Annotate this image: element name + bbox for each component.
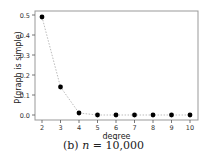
data-point — [95, 113, 100, 118]
x-tick-label: 5 — [95, 124, 99, 132]
x-tick-label: 3 — [58, 124, 62, 132]
data-point — [188, 113, 193, 118]
y-axis-label: P(graph is simple) — [14, 31, 23, 103]
chart: 0.00.10.20.30.40.52345678910degreeP(grap… — [0, 0, 207, 140]
data-point — [58, 85, 63, 90]
data-point — [114, 113, 119, 118]
caption-variable: n — [82, 139, 89, 152]
data-point — [151, 113, 156, 118]
data-point — [132, 113, 137, 118]
x-tick-label: 4 — [77, 124, 81, 132]
x-tick-label: 9 — [169, 124, 173, 132]
caption-value: 10,000 — [105, 139, 144, 152]
y-tick-label: 0.0 — [20, 112, 30, 120]
x-tick-label: 6 — [114, 124, 118, 132]
y-tick-label: 0.5 — [20, 12, 30, 20]
plot-frame — [35, 11, 198, 120]
figure-caption: (b) n = 10,000 — [0, 139, 207, 152]
caption-label: (b) — [63, 139, 79, 152]
data-point — [77, 111, 82, 116]
x-tick-label: 7 — [132, 124, 136, 132]
data-point — [40, 15, 45, 20]
x-tick-label: 10 — [186, 124, 194, 132]
x-tick-label: 2 — [40, 124, 44, 132]
x-tick-label: 8 — [151, 124, 155, 132]
series-line — [42, 17, 190, 115]
caption-equals: = — [93, 139, 102, 152]
data-point — [169, 113, 174, 118]
